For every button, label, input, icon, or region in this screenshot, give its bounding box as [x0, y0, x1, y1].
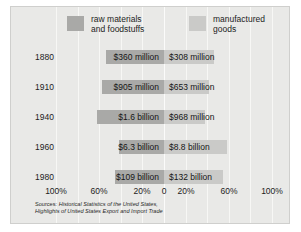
bar-value-label-raw-materials: $1.6 billion — [118, 110, 159, 124]
bar-manufactured-goods: $8.8 billion — [164, 140, 227, 154]
legend-swatch-manufactured-goods-icon — [189, 16, 206, 31]
bar-raw-materials: $905 million — [102, 80, 164, 94]
legend-label-raw-line2: and foodstuffs — [91, 24, 144, 34]
chart-row: 1960$6.3 billion$8.8 billion — [11, 139, 289, 155]
bar-value-label-manufactured-goods: $653 million — [169, 80, 214, 94]
bar-raw-materials: $6.3 billion — [119, 140, 164, 154]
axis-tick-label: 20% — [177, 185, 194, 197]
axis-tick-label: 20% — [133, 185, 150, 197]
chart-x-axis: 100%60%20%020%60%100% — [11, 185, 289, 197]
row-year-label: 1980 — [35, 169, 69, 185]
legend-item-raw-materials: raw materials and foodstuffs — [67, 15, 144, 34]
legend-label-raw-materials: raw materials and foodstuffs — [91, 15, 144, 34]
legend-label-manufactured-goods: manufactured goods — [213, 15, 265, 34]
bar-value-label-manufactured-goods: $968 million — [169, 110, 214, 124]
bar-value-label-manufactured-goods: $308 million — [169, 50, 214, 64]
chart-row: 1980$109 billion$132 billion — [11, 169, 289, 185]
axis-tick-label: 60% — [90, 185, 107, 197]
bar-value-label-manufactured-goods: $132 billion — [169, 170, 212, 184]
chart-row: 1910$905 million$653 million — [11, 79, 289, 95]
row-year-label: 1960 — [35, 139, 69, 155]
bar-raw-materials: $360 million — [106, 50, 164, 64]
bar-manufactured-goods: $132 billion — [164, 170, 223, 184]
bar-raw-materials: $109 billion — [115, 170, 164, 184]
bar-value-label-raw-materials: $6.3 billion — [118, 140, 159, 154]
bar-value-label-raw-materials: $360 million — [114, 50, 159, 64]
chart-legend: raw materials and foodstuffs manufacture… — [11, 7, 289, 39]
chart-panel: raw materials and foodstuffs manufacture… — [10, 6, 290, 224]
bar-value-label-raw-materials: $109 billion — [116, 170, 159, 184]
legend-label-mfg-line1: manufactured — [213, 14, 265, 24]
sources-lead: Sources: — [35, 201, 59, 207]
axis-tick-label: 100% — [261, 185, 283, 197]
chart-row: 1880$360 million$308 million — [11, 49, 289, 65]
axis-tick-label: 0 — [162, 185, 167, 197]
legend-label-raw-line1: raw materials — [91, 14, 142, 24]
sources-line2: Highlights of United States Export and I… — [35, 208, 163, 214]
legend-swatch-raw-materials-icon — [67, 16, 84, 31]
row-year-label: 1940 — [35, 109, 69, 125]
legend-label-mfg-line2: goods — [213, 24, 236, 34]
bar-raw-materials: $1.6 billion — [97, 110, 164, 124]
chart-sources: Sources: Historical Statistics of the Un… — [35, 201, 285, 214]
bar-value-label-raw-materials: $905 million — [114, 80, 159, 94]
bar-manufactured-goods: $968 million — [164, 110, 205, 124]
sources-line1: Historical Statistics of the United Stat… — [59, 201, 158, 207]
bar-manufactured-goods: $308 million — [164, 50, 214, 64]
legend-item-manufactured-goods: manufactured goods — [189, 15, 265, 34]
bar-value-label-manufactured-goods: $8.8 billion — [169, 140, 210, 154]
row-year-label: 1880 — [35, 49, 69, 65]
axis-tick-label: 60% — [220, 185, 237, 197]
chart-row: 1940$1.6 billion$968 million — [11, 109, 289, 125]
bar-manufactured-goods: $653 million — [164, 80, 209, 94]
axis-tick-label: 100% — [45, 185, 67, 197]
row-year-label: 1910 — [35, 79, 69, 95]
